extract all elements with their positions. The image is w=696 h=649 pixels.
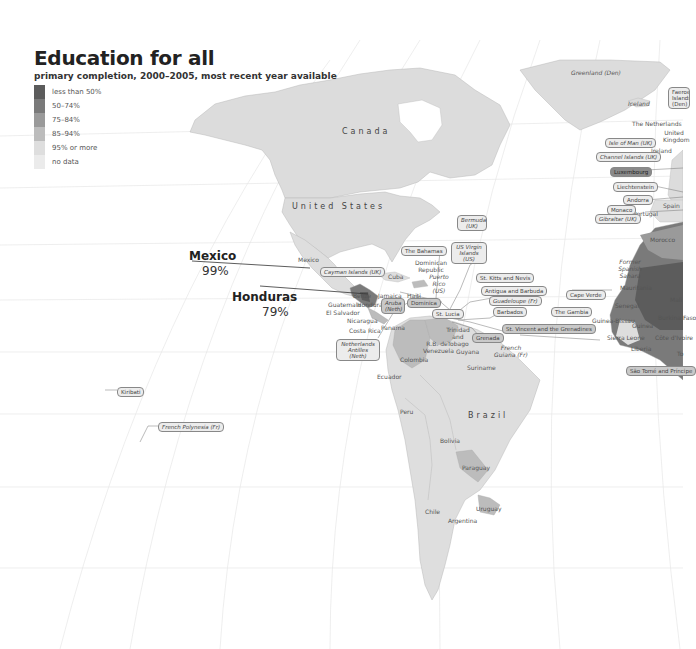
label-togo: To <box>677 350 683 357</box>
tag-st-kitts-and-nevis: St. Kitts and Nevis <box>476 273 534 283</box>
legend: less than 50% 50–74% 75–84% 85–94% 95% o… <box>34 85 101 169</box>
label-el-salvador: El Salvador <box>326 309 360 316</box>
tag-grenada: Grenada <box>472 333 504 343</box>
label-puerto-rico: Puerto Rico (US) <box>427 273 451 294</box>
legend-label: 85–94% <box>52 130 80 138</box>
label-guyana: Guyana <box>456 348 479 355</box>
legend-swatch-no-data <box>34 155 45 169</box>
tag-antigua-and-barbuda: Antigua and Barbuda <box>481 286 547 296</box>
tag-guadeloupe: Guadeloupe (Fr) <box>489 296 542 306</box>
tag-channel-islands: Channel Islands (UK) <box>596 152 661 162</box>
callout-honduras-value: 79% <box>262 305 289 319</box>
tag-st-lucia: St. Lucia <box>432 309 464 319</box>
callout-honduras-name: Honduras <box>232 290 297 304</box>
tag-french-polynesia: French Polynesia (Fr) <box>158 422 224 432</box>
label-bolivia: Bolivia <box>440 437 460 444</box>
legend-label: 95% or more <box>52 144 97 152</box>
tag-liechtenstein: Liechtenstein <box>613 182 658 192</box>
tag-barbados: Barbados <box>493 307 527 317</box>
tag-sao-tome: São Tomé and Príncipe <box>626 366 696 376</box>
label-morocco: Morocco <box>650 236 675 243</box>
legend-label: 50–74% <box>52 102 80 110</box>
legend-label: no data <box>52 158 79 166</box>
label-spain: Spain <box>663 202 680 209</box>
tag-isle-of-man: Isle of Man (UK) <box>605 138 656 148</box>
legend-item: less than 50% <box>34 85 101 99</box>
tag-the-bahamas: The Bahamas <box>401 246 447 256</box>
legend-item: 50–74% <box>34 99 101 113</box>
label-brazil: Brazil <box>468 411 508 420</box>
callout-mexico-value: 99% <box>202 264 229 278</box>
label-paraguay: Paraguay <box>462 464 490 471</box>
label-dominican-republic: Dominican Republic <box>413 259 449 273</box>
legend-item: 75–84% <box>34 113 101 127</box>
label-ecuador: Ecuador <box>377 373 402 380</box>
tag-faeroe-islands: Faeroe Islands (Den) <box>668 87 690 109</box>
tag-kiribati: Kiribati <box>117 387 144 397</box>
label-french-guiana: French Guiana (Fr) <box>492 344 530 358</box>
label-colombia: Colombia <box>400 356 428 363</box>
label-canada: Canada <box>342 127 390 136</box>
tag-aruba: Aruba (Neth) <box>381 298 405 314</box>
label-guinea-bissau: Guinea-Bissau <box>592 317 635 324</box>
label-iceland: Iceland <box>628 100 650 107</box>
page-title: Education for all <box>34 46 214 70</box>
legend-swatch-95-plus <box>34 141 45 155</box>
legend-swatch-85-94 <box>34 127 45 141</box>
legend-item: 95% or more <box>34 141 101 155</box>
label-sierra-leone: Sierra Leone <box>607 334 645 341</box>
label-the-netherlands: The Netherlands <box>632 120 682 127</box>
label-belize: Belize <box>353 292 371 299</box>
tag-netherlands-antilles: Netherlands Antilles (Neth) <box>336 339 380 361</box>
tag-the-gambia: The Gambia <box>551 307 592 317</box>
label-mali: Mali <box>670 296 682 303</box>
label-panama: Panama <box>381 324 405 331</box>
label-cote-divoire: Côte d'Ivoire <box>655 334 693 341</box>
label-cuba: Cuba <box>388 273 403 280</box>
callout-mexico-name: Mexico <box>189 249 236 263</box>
tag-cape-verde: Cape Verde <box>566 290 606 300</box>
label-western-sahara: Former Spanish Sahara <box>617 258 643 279</box>
legend-swatch-50-74 <box>34 99 45 113</box>
legend-swatch-75-84 <box>34 113 45 127</box>
tag-luxembourg: Luxembourg <box>610 167 652 177</box>
legend-swatch-less-than-50 <box>34 85 45 99</box>
legend-item: no data <box>34 155 101 169</box>
label-chile: Chile <box>425 508 440 515</box>
label-greenland: Greenland (Den) <box>571 69 621 76</box>
legend-item: 85–94% <box>34 127 101 141</box>
label-united-kingdom: United Kingdom <box>663 129 685 143</box>
label-liberia: Liberia <box>631 345 651 352</box>
label-suriname: Suriname <box>467 364 496 371</box>
legend-label: 75–84% <box>52 116 80 124</box>
legend-label: less than 50% <box>52 88 101 96</box>
label-trinidad: Trinidad and Tobago <box>441 326 475 347</box>
tag-cayman-islands: Cayman Islands (UK) <box>320 267 385 277</box>
label-united-states: United States <box>292 202 385 211</box>
tag-us-virgin-islands: US Virgin Islands (US) <box>451 242 487 264</box>
label-nicaragua: Nicaragua <box>347 317 378 324</box>
label-mexico: Mexico <box>298 256 319 263</box>
label-mauritania: Mauritania <box>620 284 652 291</box>
label-senegal: Senegal <box>615 302 639 309</box>
tag-andorra: Andorra <box>623 195 653 205</box>
tag-gibraltar: Gibraltar (UK) <box>595 214 641 224</box>
tag-bermuda: Bermuda (UK) <box>457 215 487 231</box>
label-burkina-faso: Burkina Faso <box>658 314 696 321</box>
label-argentina: Argentina <box>448 517 477 524</box>
label-guinea: Guinea <box>632 322 653 329</box>
label-uruguay: Uruguay <box>476 505 502 512</box>
label-peru: Peru <box>400 408 413 415</box>
label-costa-rica: Costa Rica <box>349 327 381 334</box>
page-subtitle: primary completion, 2000–2005, most rece… <box>34 71 337 81</box>
tag-dominica: Dominica <box>407 298 441 308</box>
tag-st-vincent: St. Vincent and the Grenadines <box>502 324 596 334</box>
